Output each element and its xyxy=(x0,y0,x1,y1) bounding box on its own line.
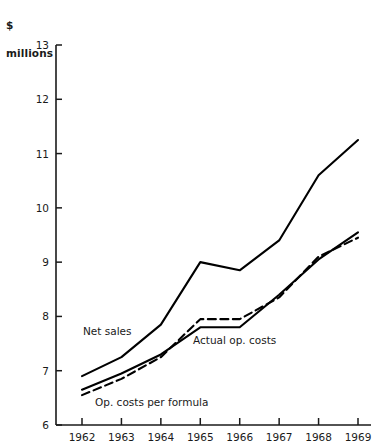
y-tick-label: 8 xyxy=(42,310,49,322)
series-annotations: Net salesActual op. costsOp. costs per f… xyxy=(83,325,276,408)
x-axis-tick-labels: 19621963196419651966196719681969 xyxy=(69,431,372,443)
x-axis-ticks xyxy=(82,418,358,425)
y-axis-tick-labels: 678910111213 xyxy=(36,39,50,431)
line-chart-plot: 678910111213 196219631964196519661967196… xyxy=(0,0,379,448)
y-tick-label: 9 xyxy=(42,256,49,268)
x-tick-label: 1962 xyxy=(69,431,96,443)
series-annotation-actual-op-costs: Actual op. costs xyxy=(193,334,276,346)
y-axis-ticks xyxy=(56,45,62,425)
y-tick-label: 12 xyxy=(36,93,49,105)
x-tick-label: 1968 xyxy=(305,431,332,443)
y-tick-label: 11 xyxy=(36,148,49,160)
y-tick-label: 10 xyxy=(36,202,49,214)
series-lines xyxy=(82,140,358,395)
x-tick-label: 1965 xyxy=(187,431,214,443)
x-tick-label: 1966 xyxy=(226,431,253,443)
y-tick-label: 6 xyxy=(42,419,49,431)
series-line-actual-op-costs xyxy=(82,232,358,389)
series-annotation-net-sales: Net sales xyxy=(83,325,132,337)
y-tick-label: 7 xyxy=(42,365,49,377)
x-tick-label: 1963 xyxy=(108,431,135,443)
series-annotation-op-costs-per-formula: Op. costs per formula xyxy=(95,396,208,408)
x-tick-label: 1967 xyxy=(266,431,293,443)
x-tick-label: 1964 xyxy=(147,431,174,443)
y-tick-label: 13 xyxy=(36,39,49,51)
x-tick-label: 1969 xyxy=(345,431,372,443)
chart-container: $ millions 678910111213 1962196319641965… xyxy=(0,0,379,448)
